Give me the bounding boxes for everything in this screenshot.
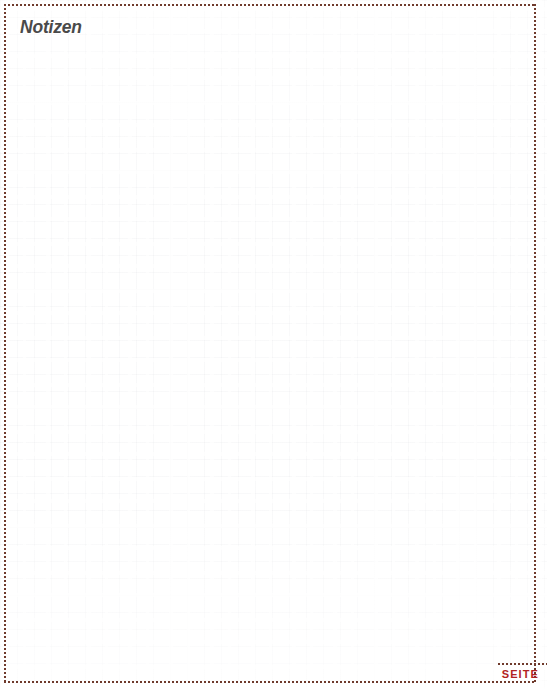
frame-bottom-border [4, 681, 536, 683]
frame-left-border [4, 4, 6, 683]
frame-top-border [4, 4, 536, 6]
frame-right-border [534, 4, 536, 683]
notes-page: Notizen SEITE [0, 0, 547, 689]
page-footer: SEITE [502, 663, 547, 685]
seite-label: SEITE [502, 669, 539, 680]
page-title: Notizen [20, 16, 82, 38]
notes-writing-area[interactable] [10, 48, 530, 656]
